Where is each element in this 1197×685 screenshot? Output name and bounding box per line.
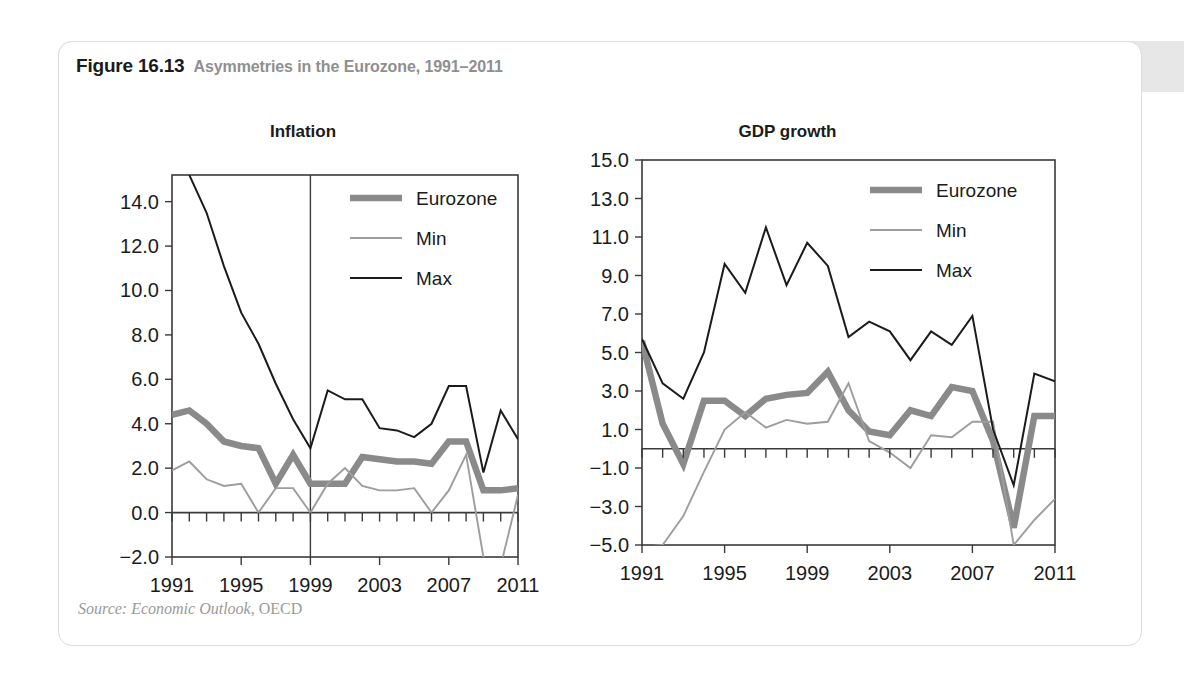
legend-label-eurozone: Eurozone bbox=[416, 188, 497, 209]
legend-label-eurozone: Eurozone bbox=[936, 180, 1017, 201]
legend-label-max: Max bbox=[416, 268, 452, 289]
y-tick-label: −1.0 bbox=[590, 457, 629, 479]
x-tick-label: 1991 bbox=[620, 562, 665, 584]
figure-root: Figure 16.13Asymmetries in the Eurozone,… bbox=[0, 0, 1197, 685]
figure-title: Asymmetries in the Eurozone, 1991–2011 bbox=[193, 58, 502, 75]
x-tick-label: 1995 bbox=[702, 562, 747, 584]
series-line-eurozone bbox=[642, 341, 1055, 528]
y-tick-label: 4.0 bbox=[131, 413, 159, 435]
figure-caption: Figure 16.13Asymmetries in the Eurozone,… bbox=[76, 52, 503, 81]
y-tick-label: 0.0 bbox=[131, 502, 159, 524]
x-tick-label: 2011 bbox=[496, 574, 539, 596]
y-tick-label: −5.0 bbox=[590, 534, 629, 556]
chart-inflation: −2.00.02.04.06.08.010.012.014.0199119951… bbox=[88, 110, 548, 590]
x-tick-label: 1995 bbox=[219, 574, 264, 596]
y-tick-label: 13.0 bbox=[590, 188, 629, 210]
series-line-eurozone bbox=[172, 410, 518, 490]
y-tick-label: 14.0 bbox=[120, 191, 159, 213]
y-tick-label: 15.0 bbox=[590, 149, 629, 171]
plot-area bbox=[642, 227, 1055, 547]
y-tick-label: 5.0 bbox=[601, 342, 629, 364]
y-tick-label: 6.0 bbox=[131, 368, 159, 390]
y-tick-label: 11.0 bbox=[592, 226, 629, 248]
source-note: Source: Economic Outlook, OECD bbox=[78, 600, 302, 618]
legend-label-max: Max bbox=[936, 260, 972, 281]
series-line-min bbox=[172, 455, 518, 566]
x-tick-label: 1999 bbox=[288, 574, 333, 596]
y-tick-label: 1.0 bbox=[601, 419, 629, 441]
chart-gdp-growth: −5.0−3.0−1.01.03.05.07.09.011.013.015.01… bbox=[560, 110, 1070, 590]
y-tick-label: 12.0 bbox=[120, 235, 159, 257]
x-tick-label: 2011 bbox=[1033, 562, 1076, 584]
x-tick-label: 2003 bbox=[868, 562, 913, 584]
x-tick-label: 2003 bbox=[357, 574, 402, 596]
plot-frame bbox=[172, 175, 518, 557]
y-tick-label: 8.0 bbox=[131, 324, 159, 346]
y-tick-label: 9.0 bbox=[601, 265, 629, 287]
y-tick-label: −3.0 bbox=[590, 496, 629, 518]
figure-number: Figure 16.13 bbox=[76, 55, 184, 76]
source-roman: , OECD bbox=[251, 600, 303, 617]
x-tick-label: 2007 bbox=[950, 562, 995, 584]
y-tick-label: 7.0 bbox=[601, 303, 629, 325]
source-italic: Source: Economic Outlook bbox=[78, 600, 251, 617]
y-tick-label: 10.0 bbox=[120, 279, 159, 301]
legend-label-min: Min bbox=[416, 228, 447, 249]
y-tick-label: 2.0 bbox=[131, 457, 159, 479]
x-tick-label: 2007 bbox=[427, 574, 472, 596]
x-tick-label: 1991 bbox=[150, 574, 195, 596]
y-tick-label: 3.0 bbox=[601, 380, 629, 402]
series-line-max bbox=[172, 124, 518, 473]
legend-label-min: Min bbox=[936, 220, 967, 241]
y-tick-label: −2.0 bbox=[120, 546, 159, 568]
x-tick-label: 1999 bbox=[785, 562, 830, 584]
